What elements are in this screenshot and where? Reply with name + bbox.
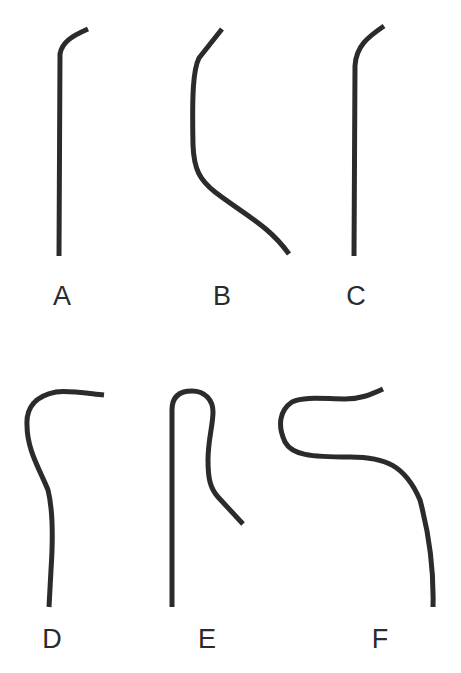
curve-a xyxy=(59,29,88,256)
label-f: F xyxy=(372,624,389,654)
panel-a: A xyxy=(53,29,88,311)
curve-e xyxy=(172,391,243,607)
panel-f: F xyxy=(281,389,434,654)
curve-diagram: A B C D E F xyxy=(0,0,461,673)
panel-d: D xyxy=(27,391,104,654)
label-c: C xyxy=(346,281,366,311)
panel-e: E xyxy=(172,391,243,654)
curve-f xyxy=(281,389,434,607)
label-a: A xyxy=(53,281,71,311)
label-b: B xyxy=(213,281,231,311)
panel-b: B xyxy=(193,29,289,311)
label-d: D xyxy=(42,624,62,654)
panel-c: C xyxy=(346,26,384,311)
curve-d xyxy=(27,391,104,607)
curve-c xyxy=(354,26,384,256)
label-e: E xyxy=(198,624,216,654)
curve-b xyxy=(193,29,289,254)
